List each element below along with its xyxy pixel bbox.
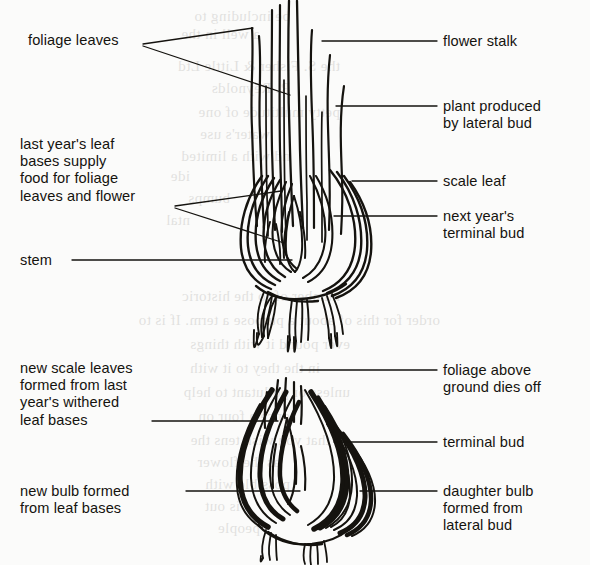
upper-bulb-figure — [241, 1, 372, 352]
label-flower-stalk: flower stalk — [443, 33, 517, 50]
label-daughter-bulb: daughter bulb formed from lateral bud — [443, 483, 534, 535]
label-last-years-leaf-bases: last year's leaf bases supply food for f… — [20, 136, 135, 205]
leader-foliage-leaves — [143, 28, 290, 95]
label-new-scale-leaves: new scale leaves formed from last year's… — [20, 360, 133, 429]
label-foliage-leaves: foliage leaves — [28, 32, 119, 49]
label-terminal-bud: terminal bud — [443, 434, 525, 451]
label-scale-leaf: scale leaf — [443, 173, 506, 190]
label-foliage-above-ground-dies-off: foliage above ground dies off — [443, 362, 541, 396]
new-bulb-scales-left — [237, 388, 299, 528]
diagram-page: be including toa well in thethe S. Fishe… — [0, 0, 590, 565]
lower-bulb-figure — [237, 378, 375, 565]
label-new-bulb-formed: new bulb formed from leaf bases — [20, 483, 129, 517]
root-stubs-lower — [261, 530, 327, 565]
flower-stalk — [288, 1, 303, 228]
label-next-years-terminal-bud: next year's terminal bud — [443, 208, 525, 242]
label-stem: stem — [20, 252, 52, 269]
label-plant-produced-by-lateral-bud: plant produced by lateral bud — [443, 98, 541, 132]
bulb-illustration — [0, 0, 590, 565]
